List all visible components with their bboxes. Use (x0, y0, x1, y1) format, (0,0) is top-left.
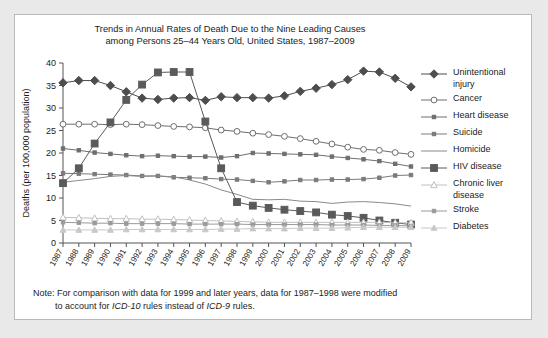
legend-label: Suicide (449, 127, 483, 139)
y-tick-label: 10 (46, 193, 56, 203)
data-point-marker (61, 147, 64, 150)
y-tick-label: 15 (46, 171, 56, 181)
legend-label: Cancer (449, 93, 482, 105)
legend-label: Diabetes (449, 221, 489, 233)
legend-label: Chronic liverdisease (449, 178, 503, 201)
data-point-marker (60, 121, 66, 127)
data-point-marker (109, 222, 112, 225)
legend-item-unintentional-injury[interactable]: Unintentionalinjury (419, 67, 537, 90)
x-tick-label: 2006 (348, 247, 365, 268)
data-point-marker (188, 176, 191, 179)
data-point-marker (313, 138, 319, 144)
data-point-marker (376, 147, 382, 153)
y-tick-label: 35 (46, 81, 56, 91)
data-point-marker (299, 153, 302, 156)
data-point-marker (155, 69, 162, 76)
figure-card: Trends in Annual Rates of Death Due to t… (14, 14, 532, 320)
x-tick-label: 1988 (64, 247, 81, 268)
data-point-marker (106, 81, 114, 89)
data-point-marker (155, 123, 161, 129)
legend-marker-open-circle-icon (419, 93, 449, 107)
data-point-marker (330, 178, 333, 181)
data-point-marker (93, 222, 96, 225)
data-point-marker (391, 74, 399, 82)
legend-item-heart-disease[interactable]: Heart disease (419, 110, 537, 124)
data-point-marker (201, 96, 209, 104)
data-point-marker (251, 179, 254, 182)
legend-item-chronic-liver-disease[interactable]: Chronic liverdisease (419, 178, 537, 201)
data-point-marker (296, 87, 304, 95)
x-tick-label: 1995 (174, 247, 191, 268)
data-point-marker (344, 75, 352, 83)
legend-item-cancer[interactable]: Cancer (419, 93, 537, 107)
data-point-marker (314, 153, 317, 156)
data-point-marker (93, 172, 96, 175)
data-point-marker (249, 93, 257, 101)
x-tick-label: 2002 (285, 247, 302, 268)
legend-label: Unintentionalinjury (449, 67, 506, 90)
data-point-marker (77, 149, 80, 152)
data-point-marker (250, 130, 256, 136)
legend-item-stroke[interactable]: Stroke (419, 204, 537, 218)
legend-marker-filled-square-icon (419, 161, 449, 175)
x-tick-label: 2003 (301, 247, 318, 268)
legend-item-hiv-disease[interactable]: HIV disease (419, 161, 537, 175)
data-point-marker (219, 177, 222, 180)
legend-item-suicide[interactable]: Suicide (419, 127, 537, 141)
data-point-marker (393, 174, 396, 177)
data-point-marker (264, 94, 272, 102)
x-tick-label: 1992 (127, 247, 144, 268)
data-point-marker (219, 156, 222, 159)
data-point-marker (122, 88, 130, 96)
x-tick-label: 2005 (333, 247, 350, 268)
note-line1: Note: For comparison with data for 1999 … (33, 288, 397, 298)
x-tick-label: 2004 (317, 247, 334, 268)
data-point-marker (234, 129, 240, 135)
data-point-marker (93, 151, 96, 154)
data-point-marker (345, 144, 351, 150)
icd10-label: ICD-10 (112, 301, 141, 311)
y-tick-label: 25 (46, 126, 56, 136)
data-point-marker (185, 93, 193, 101)
data-point-marker (431, 165, 438, 172)
data-point-marker (361, 147, 367, 153)
data-point-marker (297, 208, 304, 215)
data-point-marker (204, 155, 207, 158)
data-point-marker (139, 122, 145, 128)
data-point-marker (431, 97, 437, 103)
data-point-marker (125, 222, 128, 225)
data-point-marker (140, 222, 143, 225)
data-point-marker (233, 93, 241, 101)
legend-label-line2: injury (453, 79, 475, 89)
data-point-marker (283, 152, 286, 155)
data-point-marker (123, 121, 129, 127)
data-point-marker (172, 222, 175, 225)
data-point-marker (61, 172, 64, 175)
data-point-marker (172, 154, 175, 157)
data-point-marker (378, 176, 381, 179)
legend-item-diabetes[interactable]: Diabetes (419, 221, 537, 235)
legend-label: Stroke (449, 204, 479, 216)
data-point-marker (170, 94, 178, 102)
data-point-marker (393, 162, 396, 165)
x-tick-label: 1998 (222, 247, 239, 268)
data-point-marker (378, 159, 381, 162)
data-point-marker (267, 181, 270, 184)
legend-marker-small-filled-icon (419, 127, 449, 141)
y-axis-label: Deaths (per 100,000 population) (21, 88, 31, 217)
legend-item-homicide[interactable]: Homicide (419, 144, 537, 158)
data-point-marker (92, 121, 98, 127)
series-heart-disease (61, 147, 412, 168)
x-tick-label: 2000 (253, 247, 270, 268)
data-point-marker (218, 127, 224, 133)
data-point-marker (75, 165, 82, 172)
legend-label-line2: disease (453, 190, 484, 200)
data-point-marker (346, 178, 349, 181)
data-point-marker (156, 154, 159, 157)
legend-label: HIV disease (449, 161, 502, 173)
x-tick-label: 1999 (238, 247, 255, 268)
x-tick-label: 1994 (159, 247, 176, 268)
data-point-marker (375, 68, 383, 76)
data-point-marker (346, 156, 349, 159)
data-point-marker (280, 92, 288, 100)
